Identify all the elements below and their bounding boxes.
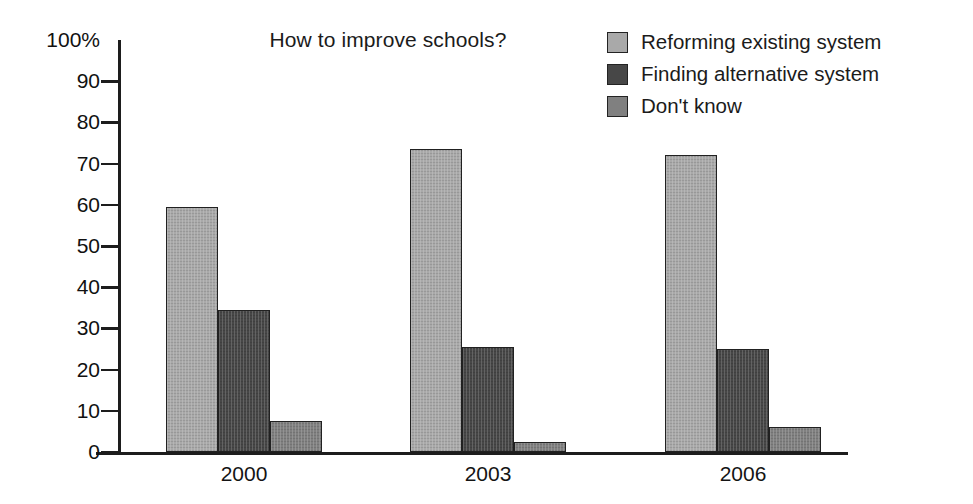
y-axis-tick-label: 70 bbox=[8, 152, 100, 176]
y-axis-tick bbox=[101, 163, 118, 166]
bar-texture bbox=[167, 208, 217, 451]
bar-texture bbox=[411, 150, 461, 451]
y-axis-tick-label: 50 bbox=[8, 234, 100, 258]
bar-texture bbox=[463, 348, 513, 451]
bar bbox=[270, 421, 322, 452]
bar bbox=[717, 349, 769, 452]
y-axis-tick bbox=[101, 369, 118, 372]
y-axis-tick-label: 10 bbox=[8, 399, 100, 423]
bar bbox=[462, 347, 514, 452]
bar-texture bbox=[718, 350, 768, 451]
bar bbox=[769, 427, 821, 452]
y-axis-labels: 100%9080706050403020100 bbox=[0, 40, 100, 454]
y-axis-tick bbox=[101, 204, 118, 207]
bar-texture bbox=[770, 428, 820, 451]
y-axis-tick-label: 0 bbox=[8, 440, 100, 464]
bars-layer bbox=[118, 40, 848, 454]
y-axis-tick bbox=[101, 245, 118, 248]
x-axis-tick-label: 2003 bbox=[428, 462, 548, 486]
bar-texture bbox=[666, 156, 716, 451]
bar bbox=[410, 149, 462, 452]
bar bbox=[166, 207, 218, 452]
y-axis-tick-label: 90 bbox=[8, 69, 100, 93]
x-axis-tick-label: 2006 bbox=[683, 462, 803, 486]
y-axis-tick-label: 60 bbox=[8, 193, 100, 217]
y-axis-tick bbox=[101, 327, 118, 330]
y-axis-tick-label: 30 bbox=[8, 316, 100, 340]
bar-texture bbox=[271, 422, 321, 451]
bar-texture bbox=[515, 443, 565, 451]
bar bbox=[514, 442, 566, 452]
bar bbox=[218, 310, 270, 452]
bar-chart: How to improve schools? Reforming existi… bbox=[0, 0, 973, 504]
y-axis-tick bbox=[101, 121, 118, 124]
bar-texture bbox=[219, 311, 269, 451]
x-axis-tick-label: 2000 bbox=[184, 462, 304, 486]
y-axis-tick-label: 100% bbox=[8, 28, 100, 52]
y-axis-tick bbox=[101, 451, 118, 454]
y-axis-tick bbox=[101, 410, 118, 413]
x-axis-labels: 200020032006 bbox=[118, 462, 848, 498]
y-axis-tick-label: 20 bbox=[8, 358, 100, 382]
y-axis-tick-label: 80 bbox=[8, 110, 100, 134]
y-axis-tick-label: 40 bbox=[8, 275, 100, 299]
y-axis-tick bbox=[101, 80, 118, 83]
y-axis-tick bbox=[101, 286, 118, 289]
plot-area: 100%9080706050403020100 bbox=[118, 40, 848, 454]
bar bbox=[665, 155, 717, 452]
